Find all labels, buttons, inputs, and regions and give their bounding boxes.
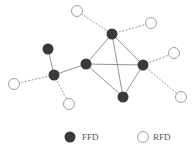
rfd-node bbox=[176, 92, 187, 103]
legend-ffd-icon bbox=[65, 132, 76, 143]
solid-edge bbox=[86, 64, 123, 97]
rfd-node bbox=[9, 79, 20, 90]
ffd-node bbox=[118, 92, 129, 103]
legend-ffd-label: FFD bbox=[82, 132, 99, 142]
nodes bbox=[9, 6, 187, 110]
solid-edge bbox=[86, 64, 143, 65]
rfd-node bbox=[169, 48, 180, 59]
network-diagram: FFD RFD bbox=[0, 0, 193, 151]
rfd-node bbox=[72, 6, 83, 17]
ffd-node bbox=[81, 59, 92, 70]
solid-edge bbox=[123, 65, 143, 97]
rfd-node bbox=[146, 18, 157, 29]
ffd-node bbox=[138, 60, 149, 71]
ffd-node bbox=[107, 29, 118, 40]
solid-edge bbox=[86, 34, 112, 64]
dashed-edge bbox=[112, 23, 151, 34]
rfd-node bbox=[64, 99, 75, 110]
legend: FFD RFD bbox=[65, 132, 172, 143]
ffd-node bbox=[43, 44, 54, 55]
legend-rfd-icon bbox=[138, 132, 149, 143]
legend-rfd-label: RFD bbox=[153, 132, 171, 142]
dashed-edge bbox=[77, 11, 112, 34]
ffd-node bbox=[49, 70, 60, 81]
dashed-edge bbox=[143, 65, 181, 97]
dashed-edge bbox=[14, 75, 54, 84]
